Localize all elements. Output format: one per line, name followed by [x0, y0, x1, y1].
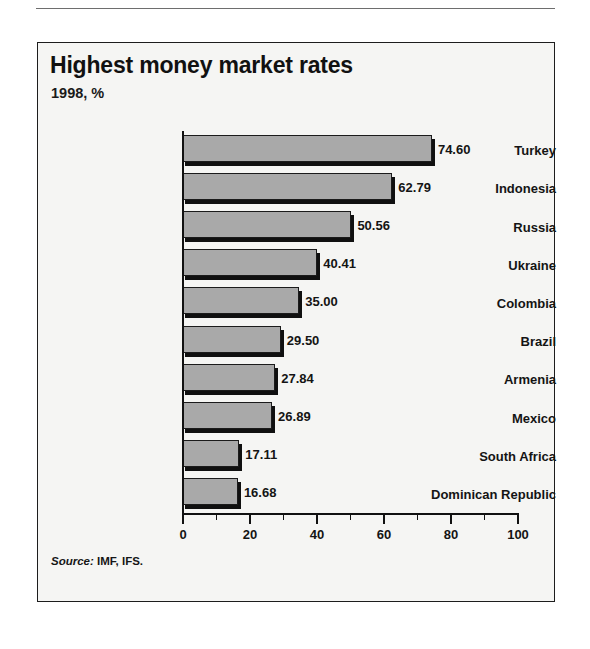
- bar-row: 35.00: [182, 287, 299, 314]
- axis-tick-major: [249, 515, 251, 524]
- bar-value-label: 62.79: [398, 179, 431, 194]
- bar-row: 27.84: [182, 364, 275, 391]
- chart-figure: Highest money market rates 1998, % Turke…: [37, 42, 555, 602]
- bar: [182, 326, 281, 353]
- axis-tick-major: [182, 515, 184, 524]
- category-label: Russia: [422, 219, 556, 234]
- axis-tick-major: [316, 515, 318, 524]
- page-canvas: Highest money market rates 1998, % Turke…: [0, 0, 590, 649]
- axis-tick-minor: [484, 515, 486, 520]
- top-rule-divider: [36, 8, 555, 9]
- bar: [182, 249, 317, 276]
- axis-tick-major: [383, 515, 385, 524]
- category-label: Ukraine: [422, 257, 556, 272]
- source-value: IMF, IFS.: [94, 555, 143, 567]
- bar-row: 29.50: [182, 326, 281, 353]
- bar: [182, 211, 351, 238]
- bar-row: 16.68: [182, 478, 238, 505]
- category-label: Armenia: [422, 372, 556, 387]
- bar-value-label: 26.89: [278, 408, 311, 423]
- bar: [182, 364, 275, 391]
- axis-tick-major: [450, 515, 452, 524]
- bar: [182, 173, 392, 200]
- bar-row: 17.11: [182, 440, 239, 467]
- category-label: Mexico: [422, 410, 556, 425]
- axis-tick-label: 100: [507, 527, 529, 542]
- bar-value-label: 50.56: [357, 217, 390, 232]
- axis-tick-minor: [216, 515, 218, 520]
- bar: [182, 402, 272, 429]
- bar-row: 40.41: [182, 249, 317, 276]
- bar: [182, 135, 432, 162]
- bar: [182, 440, 239, 467]
- y-axis-line: [182, 131, 184, 513]
- plot-area: Turkey74.60Indonesia62.79Russia50.56Ukra…: [38, 43, 556, 603]
- source-note: Source: IMF, IFS.: [51, 555, 143, 567]
- category-label: Indonesia: [422, 181, 556, 196]
- bar: [182, 478, 238, 505]
- axis-tick-label: 60: [377, 527, 391, 542]
- category-label: Brazil: [422, 334, 556, 349]
- axis-tick-minor: [350, 515, 352, 520]
- bar-row: 26.89: [182, 402, 272, 429]
- axis-tick-major: [517, 515, 519, 524]
- source-label: Source:: [51, 555, 94, 567]
- category-label: Dominican Republic: [422, 486, 556, 501]
- axis-tick-label: 0: [179, 527, 186, 542]
- axis-tick-minor: [283, 515, 285, 520]
- bar-row: 50.56: [182, 211, 351, 238]
- category-label: South Africa: [422, 448, 556, 463]
- bar-value-label: 74.60: [438, 141, 471, 156]
- bar-value-label: 16.68: [244, 484, 277, 499]
- axis-tick-label: 40: [310, 527, 324, 542]
- axis-tick-label: 20: [243, 527, 257, 542]
- axis-tick-label: 80: [444, 527, 458, 542]
- bar-value-label: 27.84: [281, 370, 314, 385]
- category-label: Colombia: [422, 295, 556, 310]
- bar: [182, 287, 299, 314]
- bar-row: 74.60: [182, 135, 432, 162]
- axis-tick-minor: [417, 515, 419, 520]
- bar-value-label: 29.50: [287, 332, 320, 347]
- bar-value-label: 35.00: [305, 293, 338, 308]
- bar-value-label: 40.41: [323, 255, 356, 270]
- bar-value-label: 17.11: [245, 446, 277, 461]
- bar-row: 62.79: [182, 173, 392, 200]
